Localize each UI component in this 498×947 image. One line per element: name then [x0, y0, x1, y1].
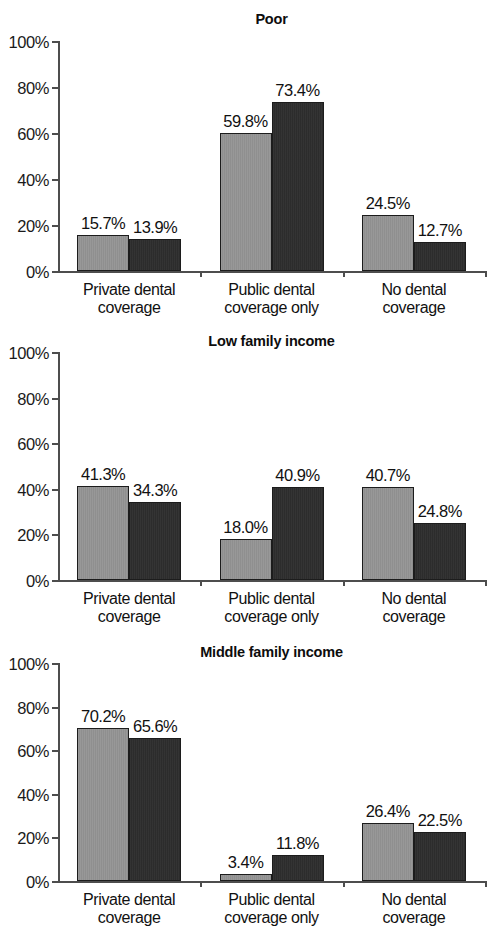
y-axis-tick: [52, 398, 58, 400]
chart-panel: Low family income0%20%40%60%80%100%41.3%…: [0, 318, 498, 640]
x-axis-category-label: Private dental coverage: [83, 590, 175, 626]
bar-series-b-2: [414, 832, 466, 881]
bar-series-a-1: [220, 133, 272, 271]
plot-area: 0%20%40%60%80%100%70.2%65.6%Private dent…: [58, 663, 485, 881]
bar-series-a-0: [77, 235, 129, 271]
y-axis-tick: [52, 443, 58, 445]
bar-value-label: 22.5%: [418, 811, 462, 830]
chart-title: Middle family income: [58, 644, 485, 660]
y-axis-tick-label: 0%: [26, 572, 49, 591]
bar-series-a-1: [220, 539, 272, 580]
y-axis-line: [58, 41, 60, 273]
bar-series-b-0: [129, 738, 181, 881]
y-axis-tick-label: 20%: [17, 526, 49, 545]
y-axis-tick: [52, 837, 58, 839]
bar-value-label: 24.5%: [366, 194, 410, 213]
x-axis-tick: [485, 580, 487, 586]
bar-value-label: 59.8%: [223, 112, 267, 131]
x-axis-line: [58, 271, 485, 273]
x-axis-category-label: Public dental coverage only: [224, 281, 318, 317]
bar-series-b-1: [272, 102, 324, 271]
bar-series-a-0: [77, 728, 129, 881]
bar-series-b-2: [414, 242, 466, 271]
bar-series-b-2: [414, 523, 466, 580]
y-axis-tick: [52, 352, 58, 354]
bar-series-a-2: [362, 823, 414, 881]
bar-value-label: 24.8%: [418, 502, 462, 521]
x-axis-tick: [343, 580, 345, 586]
y-axis-tick-label: 20%: [17, 829, 49, 848]
bar-value-label: 65.6%: [133, 717, 177, 736]
bar-value-label: 18.0%: [223, 518, 267, 537]
x-axis-category-label: Private dental coverage: [83, 281, 175, 317]
x-axis-line: [58, 580, 485, 582]
y-axis-tick: [52, 750, 58, 752]
y-axis-tick: [52, 179, 58, 181]
y-axis-tick-label: 60%: [17, 125, 49, 144]
x-axis-tick: [343, 881, 345, 887]
x-axis-category-label: Private dental coverage: [83, 891, 175, 927]
x-axis-category-label: No dental coverage: [381, 590, 446, 626]
x-axis-tick: [200, 580, 202, 586]
bar-value-label: 40.7%: [366, 466, 410, 485]
bar-series-b-0: [129, 502, 181, 580]
y-axis-tick-label: 40%: [17, 480, 49, 499]
bar-value-label: 12.7%: [418, 221, 462, 240]
y-axis-tick: [52, 663, 58, 665]
bar-value-label: 73.4%: [275, 81, 319, 100]
bar-value-label: 15.7%: [81, 214, 125, 233]
y-axis-tick-label: 0%: [26, 873, 49, 892]
y-axis-tick-label: 40%: [17, 171, 49, 190]
bar-value-label: 70.2%: [81, 707, 125, 726]
chart-panel: Poor0%20%40%60%80%100%15.7%13.9%Private …: [0, 8, 498, 331]
y-axis-tick-label: 100%: [8, 33, 49, 52]
y-axis-tick: [52, 225, 58, 227]
bar-series-b-0: [129, 239, 181, 271]
plot-area: 0%20%40%60%80%100%41.3%34.3%Private dent…: [58, 352, 485, 580]
bar-value-label: 13.9%: [133, 218, 177, 237]
y-axis-tick-label: 60%: [17, 435, 49, 454]
figure-page: Poor0%20%40%60%80%100%15.7%13.9%Private …: [0, 0, 498, 947]
bar-value-label: 34.3%: [133, 481, 177, 500]
bar-value-label: 40.9%: [275, 466, 319, 485]
x-axis-category-label: Public dental coverage only: [224, 590, 318, 626]
y-axis-tick-label: 80%: [17, 698, 49, 717]
y-axis-tick-label: 40%: [17, 785, 49, 804]
y-axis-tick: [52, 707, 58, 709]
y-axis-tick-label: 0%: [26, 263, 49, 282]
y-axis-tick-label: 20%: [17, 217, 49, 236]
y-axis-tick-label: 80%: [17, 389, 49, 408]
y-axis-line: [58, 663, 60, 883]
bar-series-b-1: [272, 487, 324, 580]
chart-panel: Middle family income0%20%40%60%80%100%70…: [0, 629, 498, 941]
x-axis-category-label: No dental coverage: [381, 891, 446, 927]
x-axis-tick: [343, 271, 345, 277]
y-axis-tick: [52, 794, 58, 796]
x-axis-tick: [485, 271, 487, 277]
y-axis-tick: [52, 534, 58, 536]
y-axis-tick: [52, 580, 58, 582]
y-axis-tick-label: 100%: [8, 655, 49, 674]
bar-series-b-1: [272, 855, 324, 881]
y-axis-tick-label: 80%: [17, 79, 49, 98]
bar-value-label: 11.8%: [276, 834, 319, 853]
plot-area: 0%20%40%60%80%100%15.7%13.9%Private dent…: [58, 41, 485, 271]
chart-title: Low family income: [58, 333, 485, 349]
bar-series-a-2: [362, 215, 414, 271]
x-axis-line: [58, 881, 485, 883]
bar-series-a-2: [362, 487, 414, 580]
y-axis-tick: [52, 133, 58, 135]
x-axis-tick: [200, 271, 202, 277]
bar-series-a-1: [220, 874, 272, 881]
y-axis-tick-label: 60%: [17, 742, 49, 761]
y-axis-tick-label: 100%: [8, 344, 49, 363]
y-axis-line: [58, 352, 60, 582]
y-axis-tick: [52, 881, 58, 883]
y-axis-tick: [52, 87, 58, 89]
bar-value-label: 26.4%: [366, 802, 410, 821]
bar-value-label: 41.3%: [81, 465, 125, 484]
y-axis-tick: [52, 489, 58, 491]
bar-value-label: 3.4%: [228, 853, 264, 872]
y-axis-tick: [52, 41, 58, 43]
x-axis-tick: [200, 881, 202, 887]
